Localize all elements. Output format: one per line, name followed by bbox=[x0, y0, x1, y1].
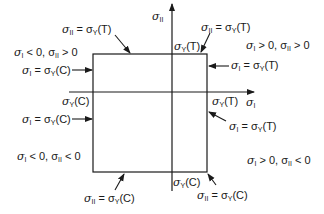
sigma-i-axis-label: σI bbox=[246, 96, 255, 112]
diagram-canvas bbox=[0, 0, 324, 214]
label-top-left-edge: σII = σY(T) bbox=[62, 23, 111, 39]
label-bottom-left-edge: σII = σY(C) bbox=[84, 192, 135, 208]
quadrant-3-label: σI < 0, σII < 0 bbox=[17, 150, 81, 166]
label-left-upper-edge: σI = σY(C) bbox=[22, 64, 71, 80]
tick-v-top: σY(T) bbox=[174, 40, 200, 56]
label-right-upper-edge: σI = σY(T) bbox=[231, 59, 279, 75]
quadrant-1-label: σI > 0, σII > 0 bbox=[246, 39, 310, 55]
sigma-ii-axis-label: σII bbox=[152, 10, 163, 26]
label-right-lower-edge: σI = σY(T) bbox=[229, 120, 277, 136]
label-left-lower-edge: σI = σY(C) bbox=[22, 113, 71, 129]
arrow-bottom-left bbox=[115, 174, 124, 190]
arrow-right-lower bbox=[209, 112, 226, 121]
quadrant-4-label: σI > 0, σII < 0 bbox=[247, 154, 311, 170]
arrow-bottom-right bbox=[208, 174, 216, 185]
label-bottom-right-edge: σII = σY(C) bbox=[197, 189, 248, 205]
label-top-right-edge: σII = σY(T) bbox=[201, 21, 250, 37]
yield-locus-square bbox=[93, 54, 207, 172]
tick-h-left: σY(C) bbox=[62, 95, 89, 111]
tick-h-right: σY(T) bbox=[212, 95, 238, 111]
arrow-top-left bbox=[115, 35, 130, 53]
quadrant-2-label: σI < 0, σII > 0 bbox=[14, 46, 78, 62]
